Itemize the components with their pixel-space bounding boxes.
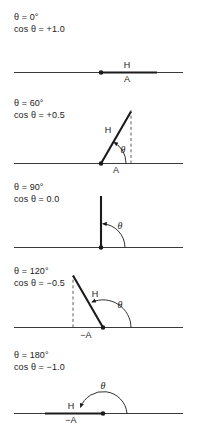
panel-180deg-angle-label: θ = 180° — [14, 350, 65, 362]
panel-60deg: θ = 60° cos θ = +0.5 — [0, 88, 197, 170]
panel-120deg-angle-label: θ = 120° — [14, 266, 65, 278]
panel-0deg-cos-label: cos θ = +1.0 — [14, 24, 65, 36]
panel-180deg: θ = 180° cos θ = −1.0 — [0, 338, 197, 438]
panel-0deg-angle-label: θ = 0° — [14, 12, 65, 24]
panel-90deg-angle-label: θ = 90° — [14, 182, 59, 194]
panel-180deg-cos-label: cos θ = −1.0 — [14, 362, 65, 374]
panel-90deg: θ = 90° cos θ = 0.0 — [0, 170, 197, 254]
panel-90deg-caption: θ = 90° cos θ = 0.0 — [14, 182, 59, 205]
panel-0deg-caption: θ = 0° cos θ = +1.0 — [14, 12, 65, 35]
panel-60deg-cos-label: cos θ = +0.5 — [14, 110, 65, 122]
panel-60deg-angle-label: θ = 60° — [14, 98, 65, 110]
panel-90deg-cos-label: cos θ = 0.0 — [14, 194, 59, 206]
panel-120deg: θ = 120° cos θ = −0.5 — [0, 254, 197, 338]
cosine-angle-figure: θ = 0° cos θ = +1.0 θ = 60° cos θ = +0.5… — [0, 0, 197, 438]
panel-120deg-caption: θ = 120° cos θ = −0.5 — [14, 266, 65, 289]
panel-60deg-caption: θ = 60° cos θ = +0.5 — [14, 98, 65, 121]
panel-0deg: θ = 0° cos θ = +1.0 — [0, 0, 197, 88]
panel-180deg-caption: θ = 180° cos θ = −1.0 — [14, 350, 65, 373]
panel-120deg-cos-label: cos θ = −0.5 — [14, 278, 65, 290]
